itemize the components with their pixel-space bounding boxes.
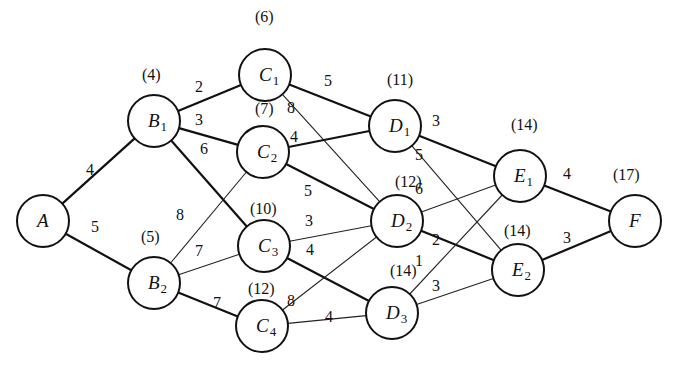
edge-weight-c2-d2: 5: [304, 182, 312, 199]
edge-weight-b1-c1: 2: [195, 78, 203, 95]
edge-d3-e1: [410, 195, 502, 294]
edge-d2-e1: [421, 185, 495, 212]
distance-label-b1: (4): [142, 66, 161, 84]
edge-weight-c3-d3: 4: [306, 241, 314, 258]
edge-weight-b2-c3: 7: [195, 242, 203, 259]
distance-label-e2: (14): [504, 222, 531, 240]
edge-weight-c3-d2: 3: [305, 212, 313, 229]
edge-weight-d2-e2: 2: [432, 231, 440, 248]
node-c2: C2: [237, 126, 289, 178]
edge-weight-c4-d3: 4: [325, 308, 333, 325]
edge-b1-c1: [178, 85, 241, 111]
node-c1: C1: [239, 49, 291, 101]
distance-label-c3: (10): [250, 200, 277, 218]
edge-weight-b1-c3: 6: [200, 140, 208, 157]
distance-label-b2: (5): [141, 228, 160, 246]
edge-weight-c4-d2: 8: [287, 292, 295, 309]
edge-weight-a-b2: 5: [91, 218, 99, 235]
distance-label-f: (17): [613, 166, 640, 184]
edge-c2-d1: [289, 131, 370, 147]
edge-e1-f: [544, 186, 611, 212]
edge-a-b1: [62, 138, 134, 203]
distance-label-c4: (12): [248, 280, 275, 298]
node-label-a: A: [35, 210, 49, 231]
edge-weight-e2-f: 3: [563, 229, 571, 246]
node-b2: B2: [128, 257, 180, 309]
nodes-layer: AB1B2C1C2C3C4D1D2D3E1E2F: [17, 49, 661, 352]
edge-c2-d2: [286, 164, 374, 209]
edge-d3-e2: [417, 278, 494, 304]
edge-c3-d3: [287, 258, 369, 301]
edge-weight-c1-d2: 8: [287, 99, 295, 116]
edge-weight-c2-d1: 4: [290, 128, 298, 145]
distance-label-c2: (7): [255, 100, 274, 118]
edge-weight-d3-e2: 3: [432, 277, 440, 294]
edge-d1-e1: [419, 136, 496, 167]
edge-b1-c2: [179, 128, 238, 145]
distance-label-c1: (6): [255, 8, 274, 26]
shortest-path-graph: 452368775845348435621343 AB1B2C1C2C3C4D1…: [0, 0, 677, 369]
edge-c1-d1: [289, 85, 371, 117]
node-c3: C3: [238, 220, 290, 272]
edge-weight-d1-e1: 3: [432, 112, 440, 129]
distance-label-d2: (12): [395, 173, 422, 191]
edge-weight-d1-e2: 5: [415, 146, 423, 163]
edge-d1-e2: [412, 146, 501, 250]
node-e2: E2: [492, 244, 544, 296]
node-label-f: F: [628, 210, 641, 231]
edge-weight-a-b1: 4: [86, 161, 94, 178]
edge-weight-b2-c2: 8: [176, 206, 184, 223]
edge-c1-d2: [282, 94, 379, 201]
edge-weight-e1-f: 4: [563, 165, 571, 182]
edge-weight-b1-c2: 3: [195, 111, 203, 128]
edge-e2-f: [542, 231, 611, 260]
edge-b2-c4: [178, 293, 238, 317]
node-d2: D2: [371, 195, 423, 247]
edge-c4-d2: [283, 237, 377, 310]
distance-labels: (4)(5)(6)(7)(10)(12)(11)(12)(14)(14)(14)…: [141, 8, 640, 298]
edge-weight-b2-c4: 7: [213, 294, 221, 311]
node-e1: E1: [494, 150, 546, 202]
node-b1: B1: [128, 95, 180, 147]
edge-weight-c1-d1: 5: [324, 72, 332, 89]
edge-c3-d2: [290, 226, 372, 241]
node-c4: C4: [236, 300, 288, 352]
distance-label-d3: (14): [390, 262, 417, 280]
node-f: F: [609, 195, 661, 247]
node-a: A: [17, 195, 69, 247]
edge-a-b2: [66, 234, 132, 271]
distance-label-e1: (14): [511, 116, 538, 134]
distance-label-d1: (11): [387, 71, 413, 89]
node-d1: D1: [369, 100, 421, 152]
edge-b2-c3: [179, 254, 240, 274]
node-d3: D3: [366, 287, 418, 339]
